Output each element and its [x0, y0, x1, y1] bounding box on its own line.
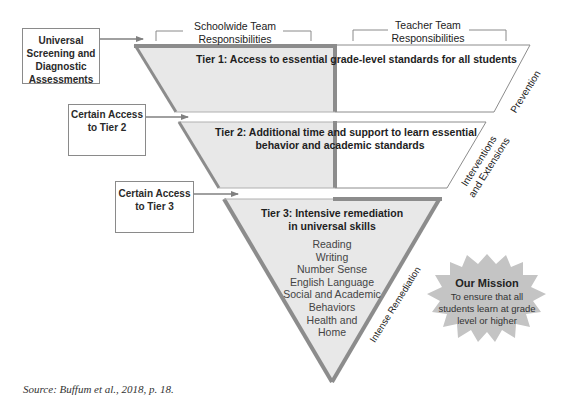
- certain-access-tier-2-box: Certain Access to Tier 2: [68, 104, 146, 156]
- skill-item: Number Sense: [262, 263, 402, 276]
- skill-item: Social and Academic: [262, 288, 402, 301]
- box-line: Certain Access: [69, 108, 145, 121]
- box-line: Certain Access: [116, 187, 193, 200]
- tier-3-title-line-2: in universal skills: [252, 220, 412, 233]
- tier-2-title: Tier 2: Additional time and support to l…: [215, 126, 465, 152]
- tier-1-title: Tier 1: Access to essential grade-level …: [196, 53, 486, 66]
- tier-2-title-line-2: behavior and academic standards: [215, 139, 465, 152]
- mission-line-1: To ensure that all: [432, 291, 542, 303]
- schoolwide-header-line-1: Schoolwide Team: [180, 20, 290, 33]
- teacher-header-line-2: Responsibilities: [378, 32, 478, 45]
- skill-item: English Language: [262, 276, 402, 289]
- box-line: Diagnostic: [23, 60, 99, 73]
- teacher-header-line-1: Teacher Team: [378, 19, 478, 32]
- schoolwide-header: Schoolwide Team Responsibilities: [180, 20, 290, 46]
- universal-screening-box: Universal Screening and Diagnostic Asses…: [22, 28, 100, 84]
- schoolwide-header-line-2: Responsibilities: [180, 33, 290, 46]
- skill-item: Writing: [262, 251, 402, 264]
- certain-access-tier-3-box: Certain Access to Tier 3: [115, 181, 194, 233]
- mission-title: Our Mission: [432, 277, 542, 291]
- tier-3-title: Tier 3: Intensive remediation in univers…: [252, 207, 412, 233]
- box-line: Universal: [23, 34, 99, 47]
- skill-item: Behaviors: [262, 301, 402, 314]
- box-line: Screening and: [23, 47, 99, 60]
- mission-line-3: level or higher: [432, 315, 542, 327]
- teacher-header: Teacher Team Responsibilities: [378, 19, 478, 45]
- source-citation: Source: Buffum et al., 2018, p. 18.: [23, 383, 174, 395]
- box-line: to Tier 3: [116, 200, 193, 213]
- mission-block: Our Mission To ensure that all students …: [432, 277, 542, 326]
- tier-2-title-line-1: Tier 2: Additional time and support to l…: [215, 126, 465, 139]
- skill-item: Reading: [262, 238, 402, 251]
- tier-3-title-line-1: Tier 3: Intensive remediation: [252, 207, 412, 220]
- box-line: to Tier 2: [69, 121, 145, 134]
- box-line: Assessments: [23, 73, 99, 86]
- mission-line-2: students learn at grade: [432, 303, 542, 315]
